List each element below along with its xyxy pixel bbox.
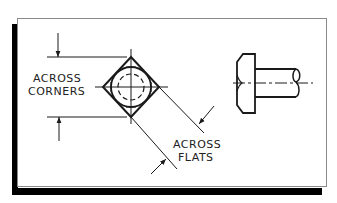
across-flats-dimension: ACROSS FLATS xyxy=(131,87,221,174)
arrow-diagonal-lower-icon xyxy=(151,159,166,174)
extension-line-upper-diagonal xyxy=(159,87,204,133)
side-view xyxy=(233,54,313,113)
across-flats-label-line1: ACROSS xyxy=(173,138,221,151)
extension-line-lower-diagonal xyxy=(131,117,177,169)
technical-drawing: ACROSS CORNERS ACROSS FLATS xyxy=(0,0,337,203)
across-corners-label-line2: CORNERS xyxy=(28,85,85,98)
across-flats-label-line2: FLATS xyxy=(178,151,214,164)
diagram-canvas: ACROSS CORNERS ACROSS FLATS xyxy=(0,0,337,203)
arrow-diagonal-upper-icon xyxy=(199,106,214,124)
break-loop xyxy=(293,69,300,82)
break-curve xyxy=(296,82,299,97)
across-corners-label-line1: ACROSS xyxy=(33,72,81,85)
end-view xyxy=(95,49,168,124)
